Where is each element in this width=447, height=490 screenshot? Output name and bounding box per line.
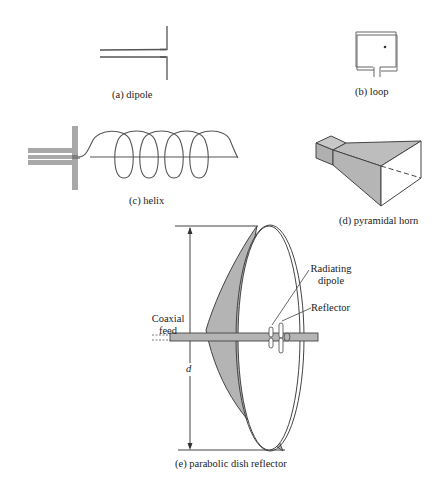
- antenna-diagrams: [0, 0, 447, 490]
- caption-dipole: (a) dipole: [112, 89, 153, 100]
- label-coaxial-feed: Coaxial feed: [146, 313, 190, 337]
- caption-loop: (b) loop: [355, 86, 389, 97]
- dipole-diagram: [100, 26, 167, 80]
- label-radiating-dipole-line2: dipole: [305, 275, 357, 287]
- label-diameter-d: d: [186, 363, 191, 375]
- parabolic-dish-diagram: [152, 225, 318, 451]
- caption-parabolic-dish: (e) parabolic dish reflector: [175, 458, 287, 469]
- label-radiating-dipole-line1: Radiating: [305, 263, 357, 275]
- loop-diagram: [356, 32, 397, 77]
- label-radiating-dipole: Radiating dipole: [305, 263, 357, 287]
- caption-helix: (c) helix: [129, 195, 164, 206]
- pyramidal-horn-diagram: [316, 136, 421, 206]
- label-coaxial-feed-line1: Coaxial: [146, 313, 190, 325]
- label-coaxial-feed-line2: feed: [146, 325, 190, 337]
- label-reflector: Reflector: [311, 302, 350, 314]
- helix-diagram: [28, 126, 238, 190]
- caption-pyramidal-horn: (d) pyramidal horn: [339, 215, 418, 226]
